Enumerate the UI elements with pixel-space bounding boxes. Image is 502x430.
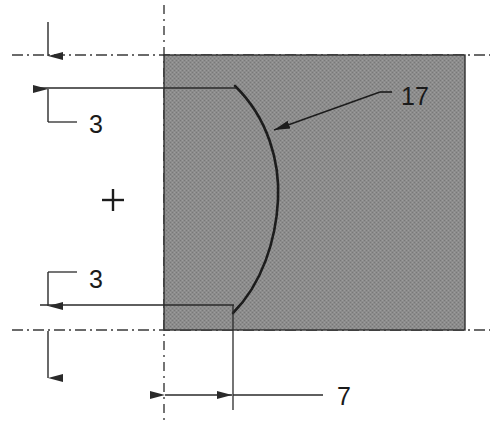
dimension-bottom-offset: 3 [48,265,103,378]
technical-drawing-canvas: 3 3 7 17 [0,0,502,430]
dim-label-arc-depth: 7 [337,382,351,410]
dim-label-bottom-offset: 3 [89,265,103,293]
dimension-arc-depth: 7 [165,382,351,410]
drawing-svg: 3 3 7 17 [0,0,502,430]
plus-center-mark [102,189,124,211]
dimension-top-offset: 3 [48,22,103,138]
leader-label-17: 17 [401,82,429,110]
dim-label-top-offset: 3 [89,110,103,138]
